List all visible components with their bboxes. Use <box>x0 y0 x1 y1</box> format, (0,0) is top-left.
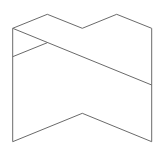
short-fold-line <box>13 43 48 57</box>
folded-ribbon-diagram <box>0 0 163 150</box>
diagonal-fold-line <box>13 28 152 85</box>
ribbon-outline <box>13 14 152 141</box>
